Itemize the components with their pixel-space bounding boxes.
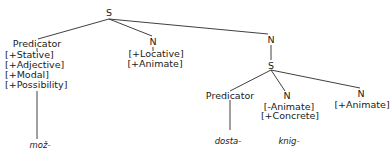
node-s-embedded: S bbox=[268, 61, 274, 71]
node-n-3: N bbox=[283, 91, 290, 101]
feature-animate-2: [+Animate] bbox=[334, 100, 389, 110]
node-predicator-1: Predicator bbox=[13, 39, 61, 49]
node-n-2: N bbox=[267, 35, 274, 45]
word-dosta: dosta- bbox=[215, 136, 242, 146]
feature-concrete: [+Concrete] bbox=[261, 111, 319, 121]
word-moz: mož- bbox=[29, 140, 50, 150]
node-predicator-2: Predicator bbox=[206, 91, 254, 101]
node-n-1: N bbox=[149, 37, 156, 47]
node-s-root: S bbox=[106, 8, 112, 18]
word-knig: knig- bbox=[278, 136, 299, 146]
feature-animate-1: [+Animate] bbox=[127, 59, 182, 69]
feature-possibility: [+Possibility] bbox=[5, 80, 67, 90]
node-n-4: N bbox=[357, 89, 364, 99]
